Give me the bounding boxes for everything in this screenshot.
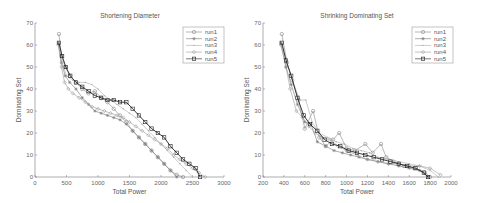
x-axis-label: Total Power [340, 188, 375, 195]
x-axis-label: Total Power [113, 188, 148, 195]
y-tick-label: 50 [254, 64, 261, 70]
chart-title: Shrinking Dominating Set [320, 12, 394, 20]
x-tick-label: 1200 [361, 180, 375, 186]
y-tick-label: 60 [254, 42, 261, 48]
x-tick-label: 0 [33, 180, 37, 186]
series-run4 [279, 43, 442, 176]
plot-area: 0102030405060702004006008001000120014001… [239, 0, 478, 203]
legend-item-run4: run4 [205, 49, 218, 55]
y-tick-label: 40 [254, 86, 261, 92]
series-run3 [58, 42, 194, 178]
y-tick-label: 10 [254, 152, 261, 158]
legend: run1run2run3run4run5 [183, 27, 224, 63]
x-tick-label: 2500 [186, 180, 200, 186]
y-tick-label: 10 [26, 152, 33, 158]
x-tick-label: 800 [321, 180, 332, 186]
series-run4 [57, 43, 207, 178]
legend-item-run5: run5 [434, 56, 447, 62]
x-tick-label: 3000 [217, 180, 231, 186]
x-tick-label: 500 [61, 180, 72, 186]
y-axis-label: Dominating Set [15, 78, 23, 123]
x-tick-label: 2000 [444, 180, 458, 186]
legend-item-run5: run5 [205, 56, 218, 62]
y-tick-label: 70 [254, 20, 261, 26]
plot-area: 010203040506070050010001500200025003000S… [0, 0, 239, 203]
y-tick-label: 50 [26, 64, 33, 70]
y-tick-label: 70 [26, 20, 33, 26]
y-tick-label: 40 [26, 86, 33, 92]
legend-item-run3: run3 [434, 42, 447, 48]
y-tick-label: 30 [26, 108, 33, 114]
chart-title: Shortening Diameter [100, 12, 160, 20]
x-tick-label: 1400 [382, 180, 396, 186]
x-tick-label: 1500 [123, 180, 137, 186]
series-run2 [57, 41, 179, 179]
x-tick-label: 200 [258, 180, 269, 186]
x-tick-label: 1000 [340, 180, 354, 186]
x-tick-label: 400 [279, 180, 290, 186]
legend-item-run4: run4 [434, 49, 447, 55]
legend-item-run3: run3 [205, 42, 218, 48]
y-tick-label: 30 [254, 108, 261, 114]
legend: run1run2run3run4run5 [412, 27, 453, 63]
series-run1 [280, 32, 432, 178]
y-tick-label: 60 [26, 42, 33, 48]
x-tick-label: 1000 [91, 180, 105, 186]
chart-shrinking-dominating-set: 0102030405060702004006008001000120014001… [239, 0, 478, 203]
x-tick-label: 1600 [403, 180, 417, 186]
x-tick-label: 2000 [154, 180, 168, 186]
y-tick-label: 20 [254, 130, 261, 136]
series-run1 [57, 32, 185, 178]
legend-item-run1: run1 [205, 29, 218, 35]
chart-shortening-diameter: 010203040506070050010001500200025003000S… [0, 0, 239, 203]
y-tick-label: 20 [26, 130, 33, 136]
legend-item-run1: run1 [434, 29, 447, 35]
legend-item-run2: run2 [205, 36, 218, 42]
x-tick-label: 600 [300, 180, 311, 186]
series-run5 [280, 41, 430, 179]
legend-item-run2: run2 [434, 36, 447, 42]
x-tick-label: 1800 [423, 180, 437, 186]
y-axis-label: Dominating Set [243, 78, 251, 123]
